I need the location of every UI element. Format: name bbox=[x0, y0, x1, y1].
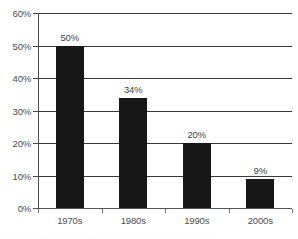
gridline bbox=[38, 13, 292, 14]
bar bbox=[119, 98, 147, 209]
bar-value-label: 50% bbox=[40, 32, 100, 43]
bar-chart-figure: 60%50%40%30%20%10%0% 50%34%20%9% 1970s19… bbox=[0, 0, 298, 239]
y-axis-tick-label: 10% bbox=[0, 170, 31, 181]
x-axis-tick bbox=[102, 209, 103, 213]
x-axis-tick-label: 1980s bbox=[103, 215, 163, 226]
x-axis-line bbox=[33, 208, 292, 209]
y-axis-tick-label: 60% bbox=[0, 8, 31, 19]
x-axis-tick bbox=[229, 209, 230, 213]
x-axis-tick bbox=[38, 209, 39, 213]
x-axis-tick bbox=[165, 209, 166, 213]
y-axis-tick-label: 40% bbox=[0, 73, 31, 84]
y-axis-tick-label: 20% bbox=[0, 138, 31, 149]
x-axis-tick-label: 1990s bbox=[167, 215, 227, 226]
bar bbox=[183, 143, 211, 208]
y-axis-tick-label: 0% bbox=[0, 203, 31, 214]
bar-value-label: 9% bbox=[230, 165, 290, 176]
bar bbox=[246, 179, 274, 208]
x-axis-tick-label: 1970s bbox=[40, 215, 100, 226]
y-axis-line bbox=[38, 13, 39, 209]
y-axis-tick-label: 30% bbox=[0, 105, 31, 116]
plot-area: 50%34%20%9% bbox=[38, 13, 292, 208]
clipped-caption-text: …… …… ……… … …… …… …… …… …… bbox=[6, 231, 292, 239]
bar-value-label: 20% bbox=[167, 129, 227, 140]
x-axis-tick bbox=[292, 209, 293, 213]
x-axis-tick-label: 2000s bbox=[230, 215, 290, 226]
bar-value-label: 34% bbox=[103, 84, 163, 95]
bar bbox=[56, 46, 84, 209]
y-axis-tick-label: 50% bbox=[0, 40, 31, 51]
